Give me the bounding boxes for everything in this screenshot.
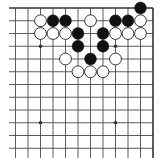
white-stone-icon bbox=[85, 66, 97, 78]
go-board bbox=[0, 0, 159, 158]
black-stone-icon bbox=[72, 40, 84, 52]
white-stone-icon bbox=[85, 15, 97, 27]
black-stone-icon bbox=[135, 2, 147, 14]
white-stone-icon bbox=[35, 15, 47, 27]
white-stone-icon bbox=[72, 66, 84, 78]
black-stone-icon bbox=[122, 15, 134, 27]
black-stone-icon bbox=[60, 15, 72, 27]
black-stone-icon bbox=[72, 28, 84, 40]
white-stone-icon bbox=[47, 28, 59, 40]
black-stone-icon bbox=[110, 15, 122, 27]
star-point-icon bbox=[39, 44, 43, 48]
white-stone-icon bbox=[110, 28, 122, 40]
white-stone-icon bbox=[110, 53, 122, 65]
white-stone-icon bbox=[60, 53, 72, 65]
black-stone-icon bbox=[85, 53, 97, 65]
star-point-icon bbox=[39, 121, 43, 125]
white-stone-icon bbox=[35, 28, 47, 40]
white-stone-icon bbox=[122, 28, 134, 40]
star-point-icon bbox=[114, 44, 118, 48]
black-stone-icon bbox=[97, 28, 109, 40]
white-stone-icon bbox=[135, 28, 147, 40]
black-stone-icon bbox=[97, 40, 109, 52]
black-stone-icon bbox=[47, 15, 59, 27]
white-stone-icon bbox=[60, 28, 72, 40]
white-stone-icon bbox=[135, 15, 147, 27]
star-point-icon bbox=[114, 121, 118, 125]
white-stone-icon bbox=[97, 66, 109, 78]
